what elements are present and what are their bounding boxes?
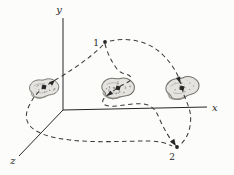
motion-paths-diagram: y x z 1 2: [0, 0, 234, 175]
y-axis-label: y: [55, 4, 62, 15]
point-1-dot: [103, 40, 107, 44]
point-2-label: 2: [169, 152, 175, 162]
point-1-label: 1: [93, 38, 99, 48]
z-axis-label: z: [9, 155, 16, 166]
x-axis-label: x: [212, 102, 218, 113]
figure-canvas: y x z 1 2: [0, 0, 234, 175]
